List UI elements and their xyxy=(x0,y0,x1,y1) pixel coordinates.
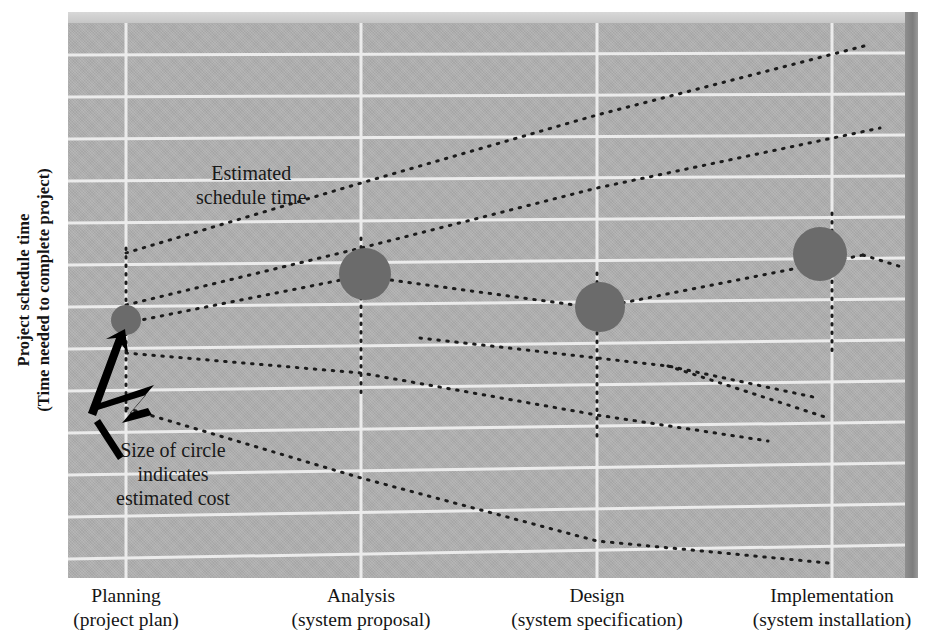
y-axis-title-primary: Project schedule time xyxy=(14,168,34,412)
annotation-size-of-circle: Size of circle indicates estimated cost xyxy=(116,438,230,510)
x-tick-analysis-sub: (system proposal) xyxy=(291,608,430,632)
bubble-planning xyxy=(111,305,141,335)
y-axis-label-text: Project schedule time (Time needed to co… xyxy=(14,168,54,412)
panel-top-bevel xyxy=(68,12,918,23)
upper-inner-bound xyxy=(126,128,880,305)
annotation-circle-line3: estimated cost xyxy=(116,486,230,510)
chart-figure: Project schedule time (Time needed to co… xyxy=(0,0,927,642)
x-tick-implementation: Implementation (system installation) xyxy=(753,584,912,633)
x-tick-analysis-label: Analysis xyxy=(327,585,395,606)
x-tick-analysis: Analysis (system proposal) xyxy=(291,584,430,633)
x-tick-implementation-label: Implementation xyxy=(770,585,893,606)
x-tick-design-label: Design xyxy=(569,585,624,606)
x-tick-planning-sub: (project plan) xyxy=(73,608,179,632)
annotation-schedule-line2: schedule time xyxy=(196,185,307,209)
plot-area: Estimated schedule time Size of circle i… xyxy=(68,23,905,578)
category-leader-lines xyxy=(126,213,832,443)
design-lower-branch xyxy=(420,338,818,398)
y-axis-label: Project schedule time (Time needed to co… xyxy=(0,0,68,580)
lower-outer-bound xyxy=(126,408,828,563)
y-axis-title-secondary: (Time needed to complete project) xyxy=(34,168,54,412)
x-axis-labels: Planning (project plan) Analysis (system… xyxy=(68,584,918,642)
lower-inner-bound-tail xyxy=(863,255,905,268)
x-tick-design-sub: (system specification) xyxy=(511,608,683,632)
implementation-lower-branch xyxy=(668,366,828,418)
x-tick-implementation-sub: (system installation) xyxy=(753,608,912,632)
lower-inner-bound xyxy=(126,255,863,323)
bubble-design xyxy=(575,282,625,332)
x-tick-planning-label: Planning xyxy=(91,585,160,606)
x-tick-design: Design (system specification) xyxy=(511,584,683,633)
plot-panel: Estimated schedule time Size of circle i… xyxy=(68,12,918,578)
upper-outer-bound xyxy=(126,45,868,253)
x-tick-planning: Planning (project plan) xyxy=(73,584,179,633)
schedule-bound-lines xyxy=(126,45,905,563)
bubble-implementation xyxy=(793,227,847,281)
annotation-estimated-schedule-time: Estimated schedule time xyxy=(196,161,307,209)
panel-right-bevel xyxy=(905,12,918,578)
annotation-schedule-line1: Estimated xyxy=(196,161,307,185)
annotation-circle-line1: Size of circle xyxy=(116,438,230,462)
annotation-circle-line2: indicates xyxy=(116,462,230,486)
bubble-analysis xyxy=(339,248,391,300)
